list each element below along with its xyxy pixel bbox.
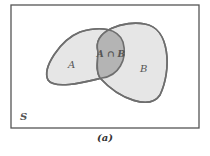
set-a-label: A [67, 59, 75, 70]
universe-label: S [20, 111, 27, 122]
figure-caption: (a) [0, 132, 210, 143]
set-b-label: B [139, 63, 147, 74]
intersection-label: A ∩ B [96, 49, 126, 59]
